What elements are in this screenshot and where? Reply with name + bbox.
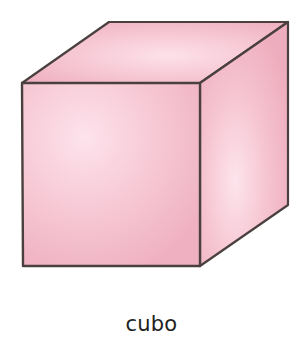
cube-front-face (22, 83, 200, 266)
cube-illustration (0, 0, 303, 340)
figure-caption: cubo (0, 312, 303, 336)
